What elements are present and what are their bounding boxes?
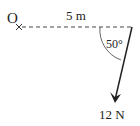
arrowhead-icon (110, 92, 121, 103)
force-label: 12 N (99, 107, 125, 122)
pivot-cross-icon (16, 24, 22, 30)
distance-label: 5 m (66, 8, 86, 23)
moment-diagram: O 5 m 50° 12 N (0, 0, 140, 126)
angle-label: 50° (106, 37, 123, 51)
pivot-label: O (7, 10, 18, 26)
